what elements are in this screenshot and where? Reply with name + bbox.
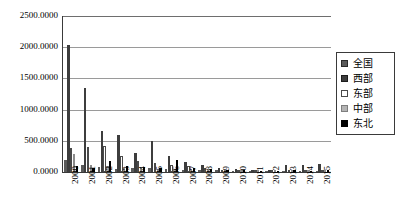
legend-label: 西部: [353, 73, 373, 84]
x-tick: 2001: [79, 174, 96, 210]
year-group: [231, 16, 248, 172]
year-group: [180, 16, 197, 172]
year-group: [314, 16, 331, 172]
x-tick: 2003: [112, 174, 129, 210]
x-axis: 2000200120022003200420052006200720082009…: [62, 174, 330, 210]
x-tick: 2006: [163, 174, 180, 210]
legend-item[interactable]: 东北: [341, 116, 390, 131]
legend-label: 东北: [353, 118, 373, 129]
year-group: [298, 16, 315, 172]
x-tick: 2008: [196, 174, 213, 210]
legend-swatch-icon: [341, 60, 348, 67]
year-group: [247, 16, 264, 172]
y-tick-label: 1000.0000: [20, 105, 58, 114]
x-tick: 2010: [230, 174, 247, 210]
y-axis: 0.0000500.00001000.00001500.00002000.000…: [0, 0, 60, 210]
legend-item[interactable]: 全国: [341, 56, 390, 71]
y-tick-label: 0.0000: [33, 167, 58, 176]
legend-item[interactable]: 西部: [341, 71, 390, 86]
plot-area: [62, 16, 331, 173]
year-group: [130, 16, 147, 172]
x-tick-label: 2015: [322, 166, 332, 184]
x-tick: 2005: [146, 174, 163, 210]
legend-label: 中部: [353, 103, 373, 114]
year-group: [97, 16, 114, 172]
x-tick: 2014: [297, 174, 314, 210]
y-tick-label: 1500.0000: [20, 73, 58, 82]
legend-swatch-icon: [341, 75, 348, 82]
year-group: [147, 16, 164, 172]
x-tick: 2011: [246, 174, 263, 210]
x-tick: 2013: [280, 174, 297, 210]
year-group: [214, 16, 231, 172]
year-group: [63, 16, 80, 172]
bar-chart: 0.0000500.00001000.00001500.00002000.000…: [0, 0, 399, 210]
x-tick: 2004: [129, 174, 146, 210]
x-tick: 2002: [96, 174, 113, 210]
year-group: [197, 16, 214, 172]
legend-swatch-icon: [341, 90, 348, 97]
x-tick: 2000: [62, 174, 79, 210]
x-tick: 2007: [179, 174, 196, 210]
legend-swatch-icon: [341, 120, 348, 127]
legend-label: 全国: [353, 58, 373, 69]
year-group: [264, 16, 281, 172]
year-group: [113, 16, 130, 172]
y-tick-label: 2000.0000: [20, 42, 58, 51]
x-tick: 2012: [263, 174, 280, 210]
legend-item[interactable]: 东部: [341, 86, 390, 101]
y-tick-label: 500.0000: [24, 136, 58, 145]
legend-swatch-icon: [341, 105, 348, 112]
year-group: [164, 16, 181, 172]
y-tick-label: 2500.0000: [20, 11, 58, 20]
year-group: [80, 16, 97, 172]
legend-label: 东部: [353, 88, 373, 99]
x-tick: 2009: [213, 174, 230, 210]
x-tick: 2015: [313, 174, 330, 210]
legend-item[interactable]: 中部: [341, 101, 390, 116]
bars-layer: [63, 16, 331, 172]
year-group: [281, 16, 298, 172]
chart-legend: 全国西部东部中部东北: [336, 52, 395, 135]
